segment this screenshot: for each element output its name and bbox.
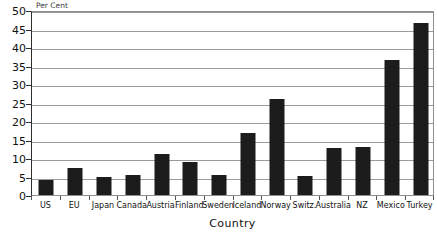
- bar-canada[interactable]: [125, 175, 140, 195]
- y-tick-label-5: 5: [19, 172, 26, 183]
- y-tick-mark: [26, 104, 31, 105]
- x-tick-mark: [117, 196, 118, 200]
- x-tick-mark: [290, 196, 291, 200]
- y-axis-title: Per Cent: [36, 2, 68, 10]
- y-tick-mark: [26, 30, 31, 31]
- bar-us[interactable]: [39, 180, 54, 195]
- x-tick-mark: [405, 196, 406, 200]
- bar-slot: [205, 12, 234, 195]
- x-tick-label-australia: Australia: [316, 201, 351, 211]
- x-tick-label-us: US: [40, 201, 51, 211]
- x-tick-label-mexico: Mexico: [377, 201, 405, 211]
- bar-switz[interactable]: [298, 176, 313, 195]
- y-tick-mark: [26, 141, 31, 142]
- x-axis-tick-labels: USEUJapanCanadaAustriaFinlandSwedenIcela…: [31, 201, 434, 217]
- x-axis-title: Country: [31, 218, 434, 229]
- bar-chart: Per Cent 05101520253035404550 USEUJapanC…: [0, 0, 437, 240]
- x-tick-mark: [146, 196, 147, 200]
- x-tick-mark: [433, 196, 434, 200]
- bar-slot: [32, 12, 61, 195]
- bar-finland[interactable]: [183, 162, 198, 195]
- x-tick-mark: [60, 196, 61, 200]
- y-tick-mark: [26, 11, 31, 12]
- y-tick-mark: [26, 85, 31, 86]
- x-tick-label-eu: EU: [69, 201, 80, 211]
- x-tick-label-sweden: Sweden: [202, 201, 234, 211]
- x-tick-mark: [31, 196, 32, 200]
- y-tick-label-50: 50: [12, 6, 26, 17]
- bar-nz[interactable]: [356, 147, 371, 195]
- bar-norway[interactable]: [269, 99, 284, 195]
- x-tick-label-turkey: Turkey: [407, 201, 433, 211]
- bar-slot: [90, 12, 119, 195]
- bars-layer: [32, 12, 433, 195]
- bar-sweden[interactable]: [212, 175, 227, 195]
- bar-iceland[interactable]: [240, 133, 255, 195]
- plot-area: [31, 11, 434, 196]
- x-tick-label-finland: Finland: [175, 201, 204, 211]
- bar-eu[interactable]: [68, 168, 83, 195]
- y-tick-label-35: 35: [12, 61, 26, 72]
- y-tick-label-20: 20: [12, 117, 26, 128]
- bar-austria[interactable]: [154, 154, 169, 195]
- x-tick-label-norway: Norway: [260, 201, 290, 211]
- y-tick-label-40: 40: [12, 43, 26, 54]
- y-tick-label-25: 25: [12, 98, 26, 109]
- y-tick-label-15: 15: [12, 135, 26, 146]
- bar-japan[interactable]: [96, 177, 111, 196]
- y-tick-mark: [26, 48, 31, 49]
- x-tick-mark: [348, 196, 349, 200]
- bar-turkey[interactable]: [413, 23, 428, 195]
- bar-slot: [234, 12, 263, 195]
- y-tick-label-30: 30: [12, 80, 26, 91]
- x-tick-mark: [204, 196, 205, 200]
- x-tick-mark: [261, 196, 262, 200]
- y-tick-label-0: 0: [19, 191, 26, 202]
- bar-australia[interactable]: [327, 148, 342, 195]
- bar-slot: [147, 12, 176, 195]
- y-tick-mark: [26, 67, 31, 68]
- x-tick-label-canada: Canada: [117, 201, 147, 211]
- bar-slot: [262, 12, 291, 195]
- bar-slot: [118, 12, 147, 195]
- x-tick-mark: [319, 196, 320, 200]
- x-tick-mark: [376, 196, 377, 200]
- bar-mexico[interactable]: [384, 60, 399, 195]
- bar-slot: [291, 12, 320, 195]
- x-tick-label-japan: Japan: [92, 201, 114, 211]
- x-tick-label-switz: Switz.: [293, 201, 317, 211]
- bar-slot: [377, 12, 406, 195]
- y-tick-label-45: 45: [12, 24, 26, 35]
- y-tick-mark: [26, 178, 31, 179]
- bar-slot: [320, 12, 349, 195]
- x-tick-mark: [89, 196, 90, 200]
- bar-slot: [349, 12, 378, 195]
- x-tick-label-austria: Austria: [146, 201, 174, 211]
- x-tick-mark: [233, 196, 234, 200]
- y-tick-mark: [26, 159, 31, 160]
- bar-slot: [61, 12, 90, 195]
- x-tick-mark: [175, 196, 176, 200]
- x-tick-label-nz: NZ: [356, 201, 367, 211]
- bar-slot: [176, 12, 205, 195]
- y-tick-mark: [26, 122, 31, 123]
- y-tick-label-10: 10: [12, 154, 26, 165]
- x-tick-label-iceland: Iceland: [232, 201, 261, 211]
- bar-slot: [406, 12, 434, 195]
